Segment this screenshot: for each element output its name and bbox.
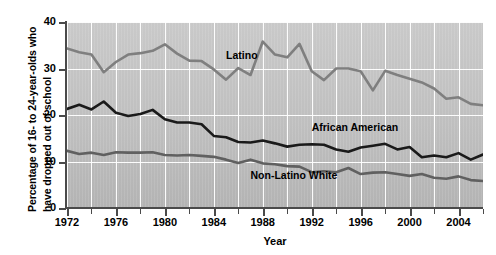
x-tick-mark (165, 209, 167, 216)
x-tick-label: 1972 (47, 216, 87, 228)
y-tick-label: 40 (4, 15, 56, 27)
y-tick-mark (59, 69, 66, 71)
x-tick-label: 2000 (390, 216, 430, 228)
y-tick-label-wrap: 30 (0, 62, 56, 74)
x-tick-mark (214, 209, 216, 216)
x-tick-mark (189, 209, 190, 214)
dropout-rate-line-chart: Percentage of 16- to 24-year-olds who ha… (0, 0, 496, 255)
y-tick-label-wrap: 40 (0, 15, 56, 27)
x-tick-label: 1976 (96, 216, 136, 228)
x-tick-label: 2004 (439, 216, 479, 228)
y-tick-label: 10 (4, 155, 56, 167)
y-tick-label: 0 (4, 201, 56, 213)
x-tick-label: 1996 (341, 216, 381, 228)
x-tick-label: 1980 (145, 216, 185, 228)
x-tick-mark (336, 209, 337, 214)
x-tick-mark (67, 209, 69, 216)
x-tick-mark (434, 209, 435, 214)
y-tick-mark (59, 22, 66, 24)
x-tick-mark (459, 209, 461, 216)
x-tick-mark (116, 209, 118, 216)
y-tick-mark (59, 208, 66, 210)
x-tick-mark (140, 209, 141, 214)
series-line-african-american (67, 102, 483, 160)
series-line-latino (67, 42, 483, 106)
x-tick-label: 1984 (194, 216, 234, 228)
x-tick-mark (91, 209, 92, 214)
x-tick-mark (385, 209, 386, 214)
y-tick-label-wrap: 20 (0, 108, 56, 120)
x-axis-title: Year (67, 235, 483, 247)
x-tick-mark (263, 209, 265, 216)
series-label-non-latino-white: Non-Latino White (251, 169, 338, 181)
x-tick-mark (361, 209, 363, 216)
x-tick-mark (287, 209, 288, 214)
x-tick-mark (238, 209, 239, 214)
y-tick-label-wrap: 0 (0, 201, 56, 213)
plot-area: LatinoAfrican AmericanNon-Latino White (67, 22, 483, 208)
x-tick-mark (410, 209, 412, 216)
x-tick-mark (483, 209, 484, 214)
x-tick-label: 1988 (243, 216, 283, 228)
x-tick-mark (312, 209, 314, 216)
y-axis-title-line-2: have dropped out of school (41, 77, 53, 212)
y-tick-mark (59, 115, 66, 117)
y-tick-label: 20 (4, 108, 56, 120)
x-axis-line (65, 207, 483, 209)
y-tick-mark (59, 162, 66, 164)
x-tick-label: 1992 (292, 216, 332, 228)
series-label-african-american: African American (312, 121, 399, 133)
y-tick-label-wrap: 10 (0, 155, 56, 167)
y-tick-label: 30 (4, 62, 56, 74)
series-label-latino: Latino (226, 49, 258, 61)
gridline-vertical (483, 22, 484, 208)
